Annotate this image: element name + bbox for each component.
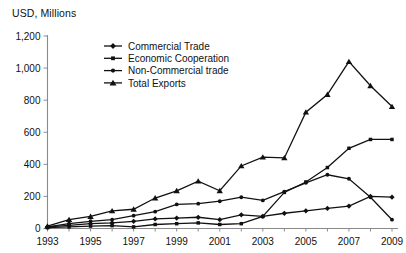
- line-chart: 02004006008001,0001,200 1993199519971999…: [0, 0, 406, 253]
- marker-square: [111, 56, 115, 60]
- marker-circle: [196, 202, 200, 206]
- legend-item-label: Economic Cooperation: [128, 53, 229, 64]
- legend-item-label: Commercial Trade: [128, 41, 210, 52]
- y-axis-ticks: 02004006008001,0001,200: [15, 31, 47, 235]
- marker-circle: [347, 177, 351, 181]
- marker-square: [153, 223, 156, 226]
- marker-circle: [153, 210, 157, 214]
- y-tick-label: 1,000: [15, 63, 40, 74]
- marker-circle: [261, 199, 265, 203]
- series-2: [46, 138, 394, 230]
- marker-circle: [132, 214, 136, 218]
- marker-triangle: [174, 188, 180, 193]
- y-tick-label: 0: [35, 223, 41, 234]
- marker-diamond: [239, 212, 244, 217]
- marker-circle: [89, 219, 93, 223]
- marker-square: [89, 224, 92, 227]
- marker-circle: [282, 190, 286, 194]
- marker-square: [261, 215, 264, 218]
- legend-item: Economic Cooperation: [104, 53, 229, 64]
- marker-diamond: [131, 219, 136, 224]
- marker-square: [240, 222, 243, 225]
- marker-diamond: [153, 216, 158, 221]
- marker-diamond: [346, 203, 351, 208]
- marker-diamond: [303, 208, 308, 213]
- marker-diamond: [282, 211, 287, 216]
- y-tick-label: 400: [24, 159, 41, 170]
- marker-circle: [175, 203, 179, 207]
- marker-square: [218, 223, 221, 226]
- marker-diamond: [217, 217, 222, 222]
- marker-circle: [239, 195, 243, 199]
- marker-square: [110, 224, 113, 227]
- marker-triangle: [324, 92, 330, 97]
- marker-square: [175, 222, 178, 225]
- marker-circle: [390, 218, 394, 222]
- x-tick-label: 1999: [166, 236, 189, 247]
- marker-square: [326, 166, 329, 169]
- chart-container: USD, Millions 02004006008001,0001,200 19…: [0, 0, 406, 253]
- series-group: [44, 59, 395, 230]
- x-tick-label: 2003: [252, 236, 275, 247]
- legend-item: Total Exports: [104, 78, 186, 89]
- marker-circle: [304, 181, 308, 185]
- marker-diamond: [196, 215, 201, 220]
- marker-square: [347, 147, 350, 150]
- x-tick-label: 2007: [338, 236, 361, 247]
- marker-triangle: [195, 178, 201, 183]
- legend-item: Commercial Trade: [104, 41, 210, 52]
- marker-square: [196, 221, 199, 224]
- y-tick-label: 200: [24, 191, 41, 202]
- marker-diamond: [389, 195, 394, 200]
- x-tick-label: 2005: [295, 236, 318, 247]
- x-tick-label: 1997: [123, 236, 146, 247]
- x-tick-label: 1995: [79, 236, 102, 247]
- marker-circle: [218, 199, 222, 203]
- x-tick-label: 2001: [209, 236, 232, 247]
- y-axis-title: USD, Millions: [12, 7, 76, 19]
- y-tick-label: 800: [24, 95, 41, 106]
- legend-item: Non-Commercial trade: [104, 65, 229, 76]
- x-axis-ticks: 199319951997199920012003200520072009: [36, 229, 403, 247]
- legend-item-label: Non-Commercial trade: [128, 65, 229, 76]
- y-tick-label: 600: [24, 127, 41, 138]
- y-tick-label: 1,200: [15, 31, 40, 42]
- marker-diamond: [110, 43, 116, 49]
- marker-circle: [325, 173, 329, 177]
- marker-square: [369, 138, 372, 141]
- x-tick-label: 1993: [36, 236, 59, 247]
- x-tick-label: 2009: [381, 236, 404, 247]
- marker-triangle: [346, 59, 352, 64]
- marker-diamond: [325, 206, 330, 211]
- chart-legend: Commercial TradeEconomic CooperationNon-…: [104, 41, 229, 89]
- marker-circle: [369, 195, 373, 199]
- marker-diamond: [174, 215, 179, 220]
- marker-circle: [67, 222, 71, 226]
- legend-item-label: Total Exports: [128, 78, 186, 89]
- marker-circle: [111, 68, 115, 72]
- marker-square: [390, 138, 393, 141]
- marker-square: [132, 225, 135, 228]
- marker-square: [67, 225, 70, 228]
- marker-circle: [110, 218, 114, 222]
